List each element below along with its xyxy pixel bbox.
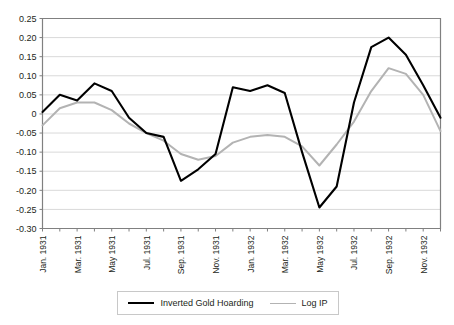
y-axis-tick-label: 0.15 (19, 52, 37, 62)
x-axis-tick-label: Mar. 1931 (73, 235, 83, 273)
series-line-inverted-gold-hoarding (43, 38, 441, 208)
y-axis-tick-label: 0.20 (19, 33, 37, 43)
series-line-log-ip (43, 68, 441, 165)
y-axis-tick-label: -0.05 (16, 128, 37, 138)
y-axis-tick-label: 0.05 (19, 90, 37, 100)
y-axis-tick-label: -0.30 (16, 224, 37, 234)
x-axis-tick-label: Jan. 1932 (246, 235, 256, 273)
x-axis-tick-label: Jul. 1932 (349, 235, 359, 270)
y-axis-tick-label: 0.10 (19, 71, 37, 81)
y-axis-tick-label: -0.25 (16, 205, 37, 215)
x-axis-tick-label: Sep. 1931 (176, 235, 186, 274)
legend-label: Log IP (302, 298, 328, 308)
y-axis-tick-label: -0.20 (16, 186, 37, 196)
y-axis-tick-label: -0.15 (16, 166, 37, 176)
legend-swatch-gray-line-icon (270, 303, 296, 304)
x-axis-tick-label: Mar. 1932 (280, 235, 290, 273)
y-axis-tick-label: 0.25 (19, 14, 37, 24)
x-axis-tick-label: Nov. 1931 (211, 235, 221, 273)
chart-figure: 0.250.200.150.100.050-0.05-0.10-0.15-0.2… (0, 0, 454, 325)
y-axis-tick-label: 0 (31, 109, 36, 119)
plot-frame (43, 19, 441, 229)
x-axis-tick-label: May 1931 (107, 235, 117, 273)
legend-item-log-ip: Log IP (270, 298, 328, 308)
y-axis-tick-label: -0.10 (16, 147, 37, 157)
chart-legend: Inverted Gold Hoarding Log IP (117, 291, 339, 315)
x-axis-tick-label: Jul. 1931 (142, 235, 152, 270)
x-axis-tick-label: Jan. 1931 (38, 235, 48, 273)
line-chart: 0.250.200.150.100.050-0.05-0.10-0.15-0.2… (0, 0, 454, 325)
x-axis-tick-label: Nov. 1932 (419, 235, 429, 273)
legend-item-inverted-gold-hoarding: Inverted Gold Hoarding (128, 298, 253, 308)
x-axis-tick-label: Sep. 1932 (384, 235, 394, 274)
legend-label: Inverted Gold Hoarding (160, 298, 253, 308)
x-axis-tick-label: May 1932 (315, 235, 325, 273)
legend-swatch-black-line-icon (128, 302, 154, 304)
